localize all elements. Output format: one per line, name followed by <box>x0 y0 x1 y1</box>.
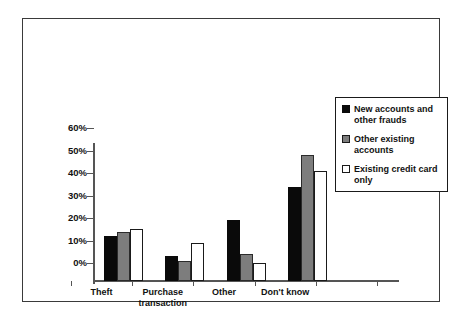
bar[interactable] <box>288 187 301 282</box>
x-axis-tick <box>193 281 194 286</box>
bar-group <box>286 146 328 281</box>
y-axis-tick-label: 60% <box>51 123 87 133</box>
bar[interactable] <box>117 232 130 282</box>
x-axis-tick <box>132 281 133 286</box>
bar[interactable] <box>240 254 253 281</box>
x-axis-tick <box>255 281 256 286</box>
legend-item[interactable]: Existing credit card only <box>342 164 442 185</box>
gray-square-swatch-icon <box>342 135 350 143</box>
bar[interactable] <box>178 261 191 281</box>
legend-item-label: New accounts and other frauds <box>354 104 442 125</box>
y-axis-tick-label: 0% <box>51 258 87 268</box>
y-axis-tick-label: 50% <box>51 146 87 156</box>
y-axis-labels: 0%10%20%30%40%50%60% <box>47 19 87 318</box>
legend-item[interactable]: Other existing accounts <box>342 134 442 155</box>
bar-group <box>103 146 145 281</box>
chart-page: 0%10%20%30%40%50%60% TheftPurchase trans… <box>0 0 466 318</box>
bar[interactable] <box>253 263 266 281</box>
y-axis-tick <box>87 128 94 129</box>
legend-item-label: Existing credit card only <box>354 164 442 185</box>
bar-group <box>164 146 206 281</box>
x-axis-tick <box>316 281 317 286</box>
bar[interactable] <box>165 256 178 281</box>
black-square-swatch-icon <box>342 105 350 113</box>
bar[interactable] <box>104 236 117 281</box>
bar[interactable] <box>227 220 240 281</box>
chart-legend: New accounts and other frauds Other exis… <box>335 97 448 192</box>
bar[interactable] <box>130 229 143 281</box>
x-axis-category-label: Don't know <box>245 287 325 298</box>
legend-item[interactable]: New accounts and other frauds <box>342 104 442 125</box>
y-axis-tick-label: 40% <box>51 168 87 178</box>
x-axis-tick <box>71 281 72 286</box>
y-axis-tick-label: 30% <box>51 191 87 201</box>
x-axis-tick <box>377 281 378 286</box>
y-axis-tick-label: 10% <box>51 236 87 246</box>
bar[interactable] <box>314 171 327 281</box>
white-square-swatch-icon <box>342 165 350 173</box>
legend-item-label: Other existing accounts <box>354 134 442 155</box>
bar[interactable] <box>301 155 314 281</box>
bar-group <box>225 146 267 281</box>
bar[interactable] <box>191 243 204 281</box>
y-axis-tick-label: 20% <box>51 213 87 223</box>
chart-frame: 0%10%20%30%40%50%60% TheftPurchase trans… <box>22 18 440 302</box>
